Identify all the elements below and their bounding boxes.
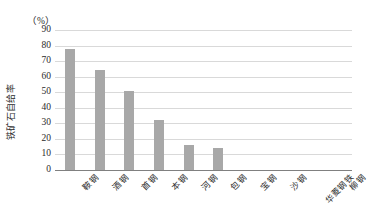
- x-axis-tick-label: 沙钢: [287, 171, 308, 192]
- x-axis-tick-label: 酒钢: [109, 171, 130, 192]
- bar: [184, 145, 194, 170]
- x-axis-tick-label: 宝钢: [257, 171, 278, 192]
- x-axis-tick-labels: 鞍钢酒钢首钢本钢河钢包钢宝钢沙钢华菱钢铁柳钢: [55, 171, 352, 217]
- bar: [95, 70, 105, 170]
- y-axis-tick-label: 40: [25, 103, 51, 112]
- x-axis-tick-label: 包钢: [228, 171, 249, 192]
- y-axis-tick-label: 0: [25, 165, 51, 174]
- y-axis-title-text: 铁矿石自给率: [4, 84, 17, 140]
- gridline: [55, 30, 352, 31]
- y-axis-tick-label: 80: [25, 41, 51, 50]
- bar: [65, 49, 75, 170]
- y-axis-tick-label: 30: [25, 118, 51, 127]
- gridline: [55, 46, 352, 47]
- plot-area: [55, 30, 352, 170]
- bar: [213, 148, 223, 170]
- x-axis-tick-label: 鞍钢: [79, 171, 100, 192]
- y-axis-tick-label: 10: [25, 149, 51, 158]
- x-axis-tick-label: 本钢: [168, 171, 189, 192]
- bar: [154, 120, 164, 170]
- y-axis-tick-label: 60: [25, 72, 51, 81]
- gridline: [55, 61, 352, 62]
- y-axis-title: 铁矿石自给率: [2, 60, 18, 164]
- y-axis-tick-label: 50: [25, 87, 51, 96]
- y-axis-tick-label: 20: [25, 134, 51, 143]
- y-axis-tick-label: 90: [25, 25, 51, 34]
- x-axis-tick-label: 河钢: [198, 171, 219, 192]
- bar: [124, 91, 134, 170]
- x-axis-tick-label: 首钢: [139, 171, 160, 192]
- y-axis-tick-label: 70: [25, 56, 51, 65]
- y-axis-tick-labels: 0102030405060708090: [25, 30, 51, 170]
